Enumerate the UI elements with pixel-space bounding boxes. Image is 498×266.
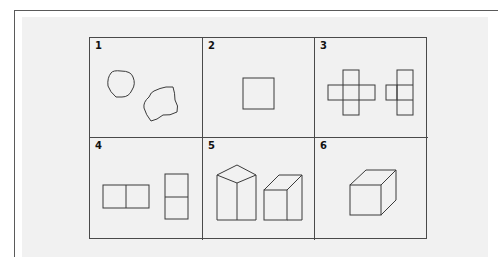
- panel-number: 4: [95, 140, 102, 151]
- panel-4: 4: [90, 138, 203, 240]
- panel-number: 5: [208, 140, 215, 151]
- panel-number: 2: [208, 40, 215, 51]
- panel-5: 5: [203, 138, 315, 240]
- panel-number: 6: [320, 140, 327, 151]
- panel-2: 2: [203, 38, 315, 138]
- panel-number: 1: [95, 40, 102, 51]
- panel-3: 3: [315, 38, 428, 138]
- panel-1: 1: [90, 38, 203, 138]
- panel-number: 3: [320, 40, 327, 51]
- panel-grid: 1 2 3 4 5 6: [89, 37, 427, 239]
- panel-6: 6: [315, 138, 428, 240]
